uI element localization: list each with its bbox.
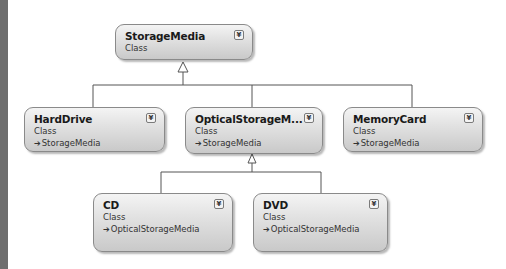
class-kind: Class xyxy=(263,212,379,223)
inheritance-arrow-icon: ➔ xyxy=(263,225,270,234)
class-kind: Class xyxy=(34,126,156,137)
inheritance-arrow-icon: ➔ xyxy=(103,225,110,234)
class-kind: Class xyxy=(125,43,244,54)
double-chevron-down-icon[interactable]: ¥ xyxy=(304,113,314,123)
double-chevron-down-icon[interactable]: ¥ xyxy=(369,199,379,209)
class-name: OpticalStorageM... xyxy=(195,113,314,126)
inheritance-arrow-icon: ➔ xyxy=(195,139,202,148)
class-name: HardDrive xyxy=(34,113,156,126)
generalization-arrow-icon xyxy=(248,154,256,163)
class-name: StorageMedia xyxy=(125,30,244,43)
inheritance-arrow-icon: ➔ xyxy=(34,139,41,148)
class-kind: Class xyxy=(195,126,314,137)
double-chevron-down-icon[interactable]: ¥ xyxy=(214,199,224,209)
class-shape-dvd[interactable]: DVD Class ➔OpticalStorageMedia ¥ xyxy=(253,193,388,252)
class-shape-opticalstoragemedia[interactable]: OpticalStorageM... Class ➔StorageMedia ¥ xyxy=(185,107,323,154)
class-name: DVD xyxy=(263,199,379,212)
class-kind: Class xyxy=(353,126,474,137)
generalization-arrow-icon xyxy=(178,62,188,72)
class-name: MemoryCard xyxy=(353,113,474,126)
class-kind: Class xyxy=(103,212,224,223)
base-class-ref: ➔OpticalStorageMedia xyxy=(263,223,379,236)
class-shape-memorycard[interactable]: MemoryCard Class ➔StorageMedia ¥ xyxy=(343,107,483,152)
base-class-ref: ➔OpticalStorageMedia xyxy=(103,223,224,236)
class-shape-cd[interactable]: CD Class ➔OpticalStorageMedia ¥ xyxy=(93,193,233,252)
double-chevron-down-icon[interactable]: ¥ xyxy=(464,113,474,123)
class-shape-storagemedia[interactable]: StorageMedia Class ¥ xyxy=(115,24,253,60)
double-chevron-down-icon[interactable]: ¥ xyxy=(234,30,244,40)
class-diagram-canvas: StorageMedia Class ¥ HardDrive Class ➔St… xyxy=(0,0,506,269)
class-shape-harddrive[interactable]: HardDrive Class ➔StorageMedia ¥ xyxy=(24,107,165,152)
double-chevron-down-icon[interactable]: ¥ xyxy=(146,113,156,123)
base-class-ref: ➔StorageMedia xyxy=(353,137,474,150)
base-class-ref: ➔StorageMedia xyxy=(195,137,314,150)
class-name: CD xyxy=(103,199,224,212)
inheritance-arrow-icon: ➔ xyxy=(353,139,360,148)
base-class-ref: ➔StorageMedia xyxy=(34,137,156,150)
